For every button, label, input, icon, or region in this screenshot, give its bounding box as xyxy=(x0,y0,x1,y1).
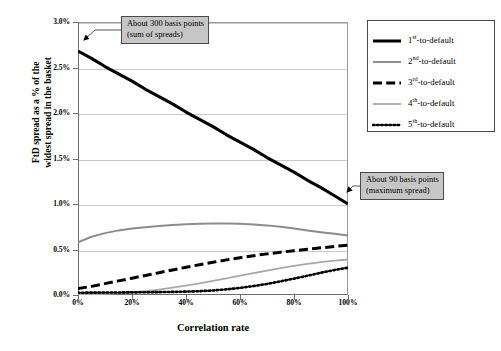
x-tick-mark xyxy=(240,295,241,300)
y-tick-label: 1.0% xyxy=(36,199,70,208)
x-tick-mark xyxy=(186,295,187,300)
callout-top-line2: (sum of spreads) xyxy=(127,30,204,41)
y-tick-label: 2.0% xyxy=(36,108,70,117)
legend-label-5th-to-default: 5th-to-default xyxy=(408,117,454,129)
annotation-callout-sum-of-spreads: About 300 basis points (sum of spreads) xyxy=(121,16,209,44)
legend-item-2nd-to-default[interactable]: 2nd-to-default xyxy=(368,49,494,70)
legend-swatch-5th-to-default xyxy=(372,117,402,129)
callout-right-line2: (maximum spread) xyxy=(366,186,439,197)
x-tick-mark xyxy=(348,295,349,300)
x-tick-mark xyxy=(294,295,295,300)
legend-label-3rd-to-default: 3rd-to-default xyxy=(408,75,455,87)
legend-swatch-1st-to-default xyxy=(372,33,402,45)
series-line-2nd-to-default xyxy=(78,223,348,242)
x-axis-title: Correlation rate xyxy=(78,322,348,333)
legend-swatch-4th-to-default xyxy=(372,96,402,108)
legend-item-3rd-to-default[interactable]: 3rd-to-default xyxy=(368,70,494,91)
plot-wrapper: FtD spread as a % of the widest spread i… xyxy=(0,0,501,351)
legend-label-1st-to-default: 1st-to-default xyxy=(408,33,454,45)
callout-right-line1: About 90 basis points xyxy=(366,175,439,186)
legend-label-4th-to-default: 4th-to-default xyxy=(408,96,454,108)
y-tick-label: 2.5% xyxy=(36,63,70,72)
legend-swatch-3rd-to-default xyxy=(372,75,402,87)
y-tick-label: 1.5% xyxy=(36,154,70,163)
y-tick-label: 0.5% xyxy=(36,245,70,254)
legend: 1st-to-default2nd-to-default3rd-to-defau… xyxy=(367,20,495,132)
callout-top-line1: About 300 basis points xyxy=(127,19,204,30)
series-line-1st-to-default xyxy=(78,51,348,204)
legend-item-5th-to-default[interactable]: 5th-to-default xyxy=(368,112,494,133)
chart-root: FtD spread as a % of the widest spread i… xyxy=(0,0,501,351)
x-tick-mark xyxy=(132,295,133,300)
leader-line-right xyxy=(347,186,360,192)
series-line-3rd-to-default xyxy=(78,245,348,289)
legend-item-4th-to-default[interactable]: 4th-to-default xyxy=(368,91,494,112)
x-tick-mark xyxy=(78,295,79,300)
y-tick-label: 3.0% xyxy=(36,17,70,26)
legend-item-1st-to-default[interactable]: 1st-to-default xyxy=(368,28,494,49)
legend-swatch-2nd-to-default xyxy=(372,54,402,66)
legend-label-2nd-to-default: 2nd-to-default xyxy=(408,54,456,66)
data-series-layer xyxy=(78,22,348,295)
annotation-callout-maximum-spread: About 90 basis points (maximum spread) xyxy=(360,172,444,200)
